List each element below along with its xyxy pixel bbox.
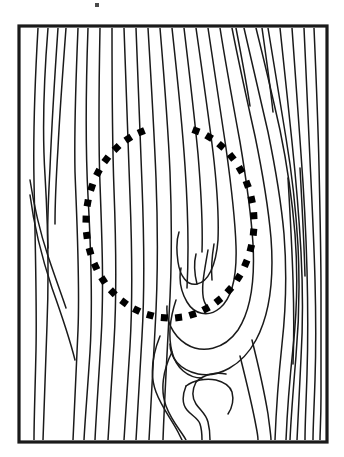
- annotation-dot: [82, 216, 89, 223]
- annotation-dot: [250, 228, 258, 236]
- wood-grain-canvas: [0, 0, 344, 457]
- annotation-dot: [84, 199, 92, 207]
- annotation-dot: [161, 314, 169, 322]
- scan-artifact-speck: [95, 3, 99, 7]
- annotation-dot: [250, 212, 257, 219]
- annotation-dot: [83, 232, 91, 240]
- annotation-dot: [175, 314, 183, 322]
- wood-grain-figure: Wood grain surface with highlighted knot…: [0, 0, 344, 457]
- board-outline-frame: [19, 26, 327, 442]
- annotation-dot: [248, 196, 256, 204]
